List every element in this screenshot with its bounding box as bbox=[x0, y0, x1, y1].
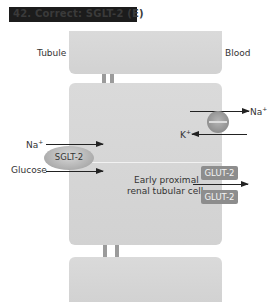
sglt2-transporter: SGLT-2 bbox=[44, 146, 94, 170]
proximal-tubular-cell bbox=[69, 83, 222, 245]
na-right-label: Na+ bbox=[250, 105, 267, 117]
glut2-transporter-bottom: GLUT-2 bbox=[201, 190, 238, 204]
k-label: K+ bbox=[180, 128, 191, 140]
k-influx-arrow bbox=[192, 134, 247, 135]
glucose-efflux-arrow bbox=[193, 184, 248, 185]
bottom-cell bbox=[69, 257, 222, 302]
cell-label-line2: renal tubular cell bbox=[127, 186, 203, 196]
top-cell bbox=[69, 31, 222, 74]
glucose-label: Glucose bbox=[11, 165, 47, 175]
answer-header: 42. Correct: SGLT-2 (E) bbox=[9, 7, 137, 22]
na-k-atpase-pump bbox=[207, 111, 229, 133]
glucose-influx-arrow bbox=[46, 171, 103, 172]
glut2-transporter-top: GLUT-2 bbox=[201, 166, 238, 180]
answer-title: 42. Correct: SGLT-2 (E) bbox=[13, 8, 144, 19]
tight-junction bbox=[115, 245, 119, 257]
na-left-label: Na+ bbox=[26, 138, 43, 150]
blood-label: Blood bbox=[225, 48, 250, 58]
tight-junction bbox=[110, 74, 114, 83]
cell-label-line1: Early proximal bbox=[134, 175, 199, 185]
tight-junction bbox=[103, 245, 107, 257]
na-influx-arrow bbox=[46, 144, 103, 145]
tubule-label: Tubule bbox=[37, 48, 66, 58]
tight-junction bbox=[102, 74, 106, 83]
